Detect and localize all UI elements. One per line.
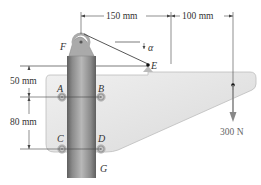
load-label: 300 N [220, 127, 244, 137]
dim-arrow-icon [167, 15, 171, 18]
dim-arrow-icon [28, 66, 31, 70]
dim-100mm: 100 mm [182, 11, 214, 21]
angle-label: α [148, 42, 154, 53]
dim-150mm: 150 mm [106, 11, 138, 21]
label-a: A [56, 83, 64, 94]
angle-arrowhead-icon [143, 46, 146, 49]
dim-arrow-icon [81, 15, 85, 18]
point-e-icon [146, 63, 150, 67]
vertical-post [67, 56, 96, 178]
dim-arrow-icon [171, 15, 175, 18]
mechanism-diagram: α F E A B C D G 150 mm 100 mm 50 mm 80 m… [0, 0, 261, 185]
dim-80mm: 80 mm [10, 117, 37, 127]
pulley-axle-icon [79, 40, 82, 43]
label-d: D [97, 133, 106, 144]
label-b: B [98, 83, 104, 94]
dim-arrow-icon [28, 97, 31, 101]
label-g: G [100, 163, 107, 174]
dim-50mm: 50 mm [10, 76, 37, 86]
label-e: E [150, 60, 157, 71]
dim-arrow-icon [28, 93, 31, 97]
dim-arrow-icon [28, 145, 31, 149]
label-c: C [57, 133, 64, 144]
dim-arrow-icon [229, 15, 233, 18]
label-f: F [59, 41, 67, 52]
load-arrowhead-icon [230, 112, 237, 122]
